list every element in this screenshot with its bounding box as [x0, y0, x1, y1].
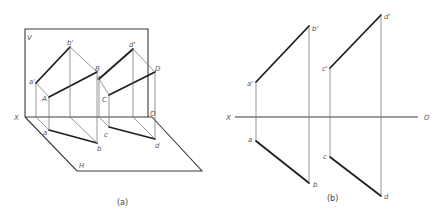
label-X-b: X [225, 114, 231, 122]
projector-b-prime-B [70, 47, 97, 72]
label-c-prime-a: c' [97, 74, 103, 82]
label-a-b: a [248, 136, 252, 144]
label-b-prime-a: b' [67, 39, 73, 47]
cd-front-view [330, 15, 381, 68]
label-a-prime-b: a' [247, 80, 253, 88]
label-a-a: a [43, 129, 47, 137]
ab-space-line [49, 72, 97, 97]
label-b-a: b [97, 145, 102, 153]
cd-front-projection [99, 49, 133, 79]
label-d-a: d [155, 142, 160, 150]
projector-cx-c [99, 117, 109, 127]
label-b-b: b [313, 181, 318, 189]
label-a-prime-a: a' [29, 78, 35, 86]
descriptive-geometry-figure: V H X O a' b' B A a b c' d' D C c d (a) … [0, 0, 440, 224]
label-d-prime-a: d' [129, 41, 135, 49]
label-O-a: O [150, 110, 156, 118]
label-c-a: c [104, 131, 108, 139]
label-d-prime-b: d' [384, 13, 390, 21]
label-C: C [102, 96, 107, 104]
label-c-b: c [323, 153, 327, 161]
label-H: H [79, 162, 85, 170]
label-A: A [41, 95, 47, 103]
label-B: B [95, 65, 100, 73]
ab-front-projection [36, 47, 70, 83]
caption-a: (a) [117, 198, 128, 207]
panel-a-pictorial: V H X O a' b' B A a b c' d' D C c d (a) [13, 29, 202, 207]
cd-top-view [330, 157, 381, 196]
label-b-prime-b: b' [312, 25, 318, 33]
caption-b: (b) [327, 194, 338, 203]
label-D: D [155, 65, 161, 73]
label-O-b: O [424, 114, 430, 122]
label-V: V [27, 34, 33, 42]
panel-b-orthographic: X O a' b' a b c' d' c d (b) [225, 13, 430, 203]
label-d-b: d [384, 193, 389, 201]
h-plane-outline [25, 117, 202, 171]
projector-d-prime-D [133, 49, 155, 72]
ab-top-view [256, 141, 309, 183]
cd-top-projection [109, 127, 155, 139]
ab-front-view [256, 26, 309, 82]
label-X-a: X [13, 114, 19, 122]
label-c-prime-b: c' [322, 65, 328, 73]
